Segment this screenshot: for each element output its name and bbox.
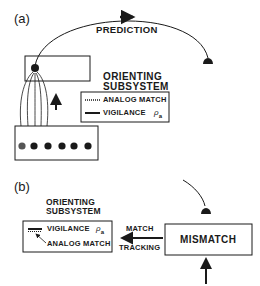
rho-subscript-b: a [101,229,105,235]
rho-symbol: ρ [154,108,159,117]
prediction-terminal-icon [203,58,213,64]
vigilance-label-b: VIGILANCE ρa [47,225,104,233]
orienting-title-a-line2: SUBSYSTEM [103,82,169,92]
adaptive-pathways [20,72,47,126]
match-label: MATCH [126,225,154,233]
vigilance-text-b: VIGILANCE [47,224,90,233]
input-nodes [18,142,91,149]
mismatch-input-curve [183,180,205,206]
orienting-title-b-line2: SUBSYSTEM [46,207,101,216]
prediction-label: PREDICTION [96,25,158,35]
rho-symbol-b: ρ [96,224,101,233]
panel-a-label: (a) [14,12,30,25]
legend-analog-match: ANALOG MATCH [103,96,167,104]
analog-match-label-b: ANALOG MATCH [47,240,111,248]
legend-vigilance-text: VIGILANCE [103,108,146,117]
category-node [31,64,39,72]
panel-b-label: (b) [14,180,30,193]
tracking-label: TRACKING [119,244,160,252]
mismatch-terminal-icon [201,208,211,214]
mismatch-label: MISMATCH [180,235,236,245]
analog-match-pointer-icon [36,234,46,243]
rho-subscript: a [159,113,163,119]
input-box [15,126,98,160]
legend-vigilance: VIGILANCE ρa [103,109,162,117]
